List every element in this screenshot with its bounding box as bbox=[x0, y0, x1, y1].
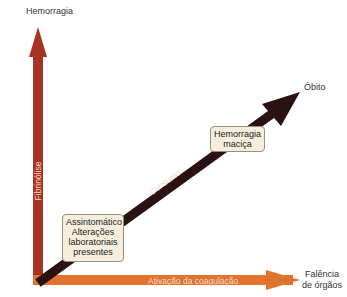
early-box-line3: laboratoriais bbox=[66, 237, 120, 247]
early-box-line2: Alterações bbox=[66, 227, 120, 237]
x-axis-end-label: Falência de órgãos bbox=[302, 269, 342, 291]
late-box-line2: maciça bbox=[214, 139, 261, 149]
x-axis-inner-label: Ativação da coagulação bbox=[148, 276, 238, 286]
diagram-canvas bbox=[0, 0, 347, 297]
early-box-line4: presentes bbox=[66, 247, 120, 257]
y-axis-top-label: Hemorragia bbox=[26, 6, 73, 17]
late-box-line1: Hemorragia bbox=[214, 129, 261, 139]
massive-hemorrhage-box: Hemorragia maciça bbox=[210, 126, 265, 152]
x-axis-end-line2: de órgãos bbox=[302, 280, 342, 291]
early-box-line1: Assintomático bbox=[66, 217, 120, 227]
x-axis-end-line1: Falência bbox=[302, 269, 342, 280]
diagonal-end-label: Óbito bbox=[304, 82, 326, 93]
early-stage-box: Assintomático Alterações laboratoriais p… bbox=[62, 214, 124, 262]
y-axis-inner-label: Fibrinólise bbox=[33, 156, 43, 206]
